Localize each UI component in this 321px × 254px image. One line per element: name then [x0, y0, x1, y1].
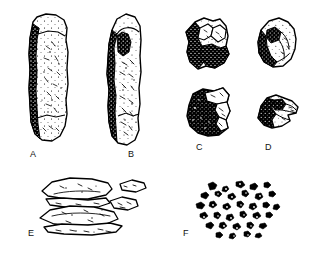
specimen-f-drawing — [190, 178, 285, 240]
specimen-a-drawing — [22, 12, 78, 144]
specimen-c-drawing — [181, 86, 233, 140]
specimen-plate-figure: A — [0, 0, 321, 254]
specimen-b-drawing — [98, 12, 150, 148]
specimen-e-drawing — [36, 174, 148, 240]
specimen-c-label: C — [196, 143, 203, 152]
specimen-d-drawing — [252, 92, 302, 136]
angular-fragment-upper-left-drawing — [182, 16, 232, 74]
rounded-fragment-upper-right-drawing — [253, 16, 301, 72]
specimen-e-label: E — [28, 229, 34, 238]
specimen-a-label: A — [30, 150, 36, 159]
specimen-b-label: B — [128, 150, 134, 159]
specimen-f-label: F — [183, 229, 189, 238]
specimen-d-label: D — [265, 143, 272, 152]
